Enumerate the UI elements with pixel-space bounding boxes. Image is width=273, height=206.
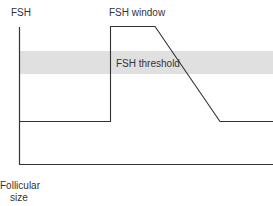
fsh-window-label: FSH window bbox=[109, 7, 165, 18]
y-axis-label: FSH bbox=[11, 7, 31, 18]
fsh-threshold-label: FSH threshold bbox=[116, 58, 180, 69]
x-axis-label-line2: size bbox=[0, 192, 38, 204]
x-axis-label: Follicular size bbox=[0, 180, 38, 204]
x-axis-label-line1: Follicular bbox=[0, 180, 38, 192]
fsh-window-diagram bbox=[0, 0, 273, 206]
